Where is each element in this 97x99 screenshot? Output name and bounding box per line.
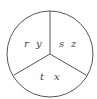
sector-right-label-1: s [59, 38, 64, 49]
sector-left-label-2: y [35, 38, 42, 49]
sector-right-label-2: z [70, 38, 77, 49]
spoke-lower-left [14, 54, 50, 75]
sector-bottom-label-2: x [54, 71, 60, 82]
sector-bottom-label-1: t [40, 71, 45, 82]
sector-left-label-1: r [24, 38, 30, 49]
sector-diagram: r y s z t x [0, 0, 97, 99]
